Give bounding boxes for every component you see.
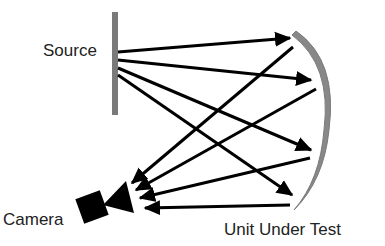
source-label: Source (43, 41, 97, 61)
source-bar (112, 12, 118, 115)
camera-lens (103, 181, 134, 213)
incident-ray-4 (118, 75, 292, 195)
reflected-ray-3 (140, 158, 310, 198)
unit-under-test-label: Unit Under Test (224, 220, 341, 240)
camera-label: Camera (3, 210, 63, 230)
camera (75, 181, 134, 224)
reflected-ray-4 (145, 205, 290, 208)
camera-body (75, 190, 108, 223)
incident-ray-2 (118, 60, 311, 80)
unit-under-test-mirror (292, 31, 331, 210)
incident-ray-1 (118, 38, 290, 52)
